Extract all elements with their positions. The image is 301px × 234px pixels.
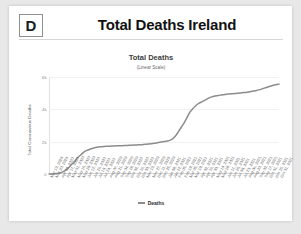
y-tick-label: 0 bbox=[44, 172, 46, 177]
chart-subtitle: (Linear Scale) bbox=[19, 65, 283, 70]
page-title: Total Deaths Ireland bbox=[49, 16, 285, 33]
legend-label: Deaths bbox=[148, 200, 165, 206]
chart-container: Total Deaths (Linear Scale) Total Corona… bbox=[19, 42, 283, 214]
y-tick-label: 6k bbox=[42, 75, 46, 80]
legend-line-swatch bbox=[138, 202, 145, 204]
title-divider bbox=[19, 39, 283, 40]
chart-legend: Deaths bbox=[19, 200, 283, 206]
y-tick-label: 2k bbox=[42, 139, 46, 144]
y-tick-label: 4k bbox=[42, 107, 46, 112]
y-axis-title-text: Total Coronavirus Deaths bbox=[27, 86, 32, 174]
chart-title: Total Deaths bbox=[19, 53, 283, 62]
y-axis-title: Total Coronavirus Deaths bbox=[27, 0, 32, 86]
figure-panel: D Total Deaths Ireland Total Deaths (Lin… bbox=[9, 6, 292, 221]
